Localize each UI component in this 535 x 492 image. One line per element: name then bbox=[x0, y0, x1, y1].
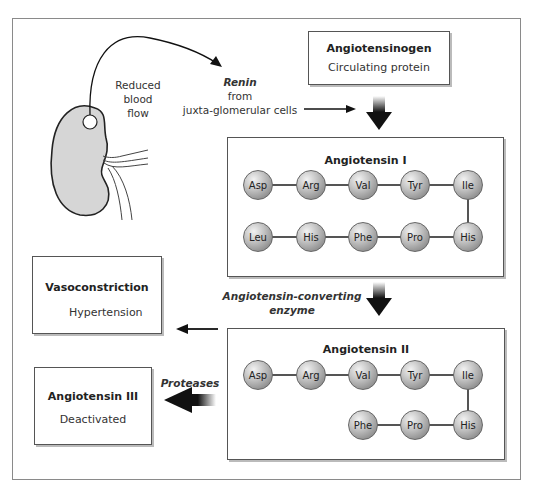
renin-label: Renin from juxta-glomerular cells bbox=[175, 75, 305, 117]
residue: Leu bbox=[243, 222, 273, 252]
proteases-label: Proteases bbox=[160, 376, 220, 390]
residue: Pro bbox=[400, 222, 430, 252]
renin-source: juxta-glomerular cells bbox=[175, 103, 305, 117]
ace-label: Angiotensin-converting enzyme bbox=[222, 289, 362, 317]
residue: Ile bbox=[453, 170, 483, 200]
angiotensin-3-box: Angiotensin III Deactivated bbox=[34, 367, 152, 445]
hypertension-label: Hypertension bbox=[33, 306, 161, 319]
residue: Asp bbox=[243, 170, 273, 200]
angiotensin-2-box: Angiotensin II bbox=[227, 328, 505, 460]
residue: His bbox=[453, 222, 483, 252]
residue: Ile bbox=[453, 360, 483, 390]
residue: Val bbox=[348, 170, 378, 200]
residue: Val bbox=[348, 360, 378, 390]
renin-name: Renin bbox=[175, 75, 305, 89]
residue: Arg bbox=[296, 360, 326, 390]
angiotensinogen-box: Angiotensinogen Circulating protein bbox=[308, 31, 450, 85]
residue: Pro bbox=[400, 410, 430, 440]
residue: His bbox=[296, 222, 326, 252]
residue: Phe bbox=[348, 222, 378, 252]
residue: Phe bbox=[348, 410, 378, 440]
residue: Tyr bbox=[400, 360, 430, 390]
angiotensin-1-box: Angiotensin I bbox=[227, 137, 504, 277]
kidney-label: Reduced blood flow bbox=[108, 78, 168, 120]
residue: Arg bbox=[296, 170, 326, 200]
residue: His bbox=[453, 410, 483, 440]
residue: Tyr bbox=[400, 170, 430, 200]
residue: Asp bbox=[243, 360, 273, 390]
vasoconstriction-box: Vasoconstriction Hypertension bbox=[32, 256, 162, 334]
